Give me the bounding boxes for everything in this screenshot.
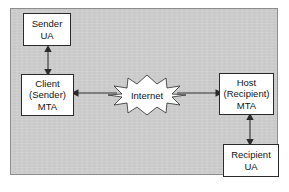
- node-client-mta-line-1: Client: [35, 78, 59, 90]
- arrowhead-up-icon: [44, 45, 51, 52]
- diagram-panel: Sender UA Client (Sender) MTA Host (Reci…: [10, 8, 278, 175]
- connector-host-mta-to-recipient-ua: [241, 113, 259, 146]
- node-client-mta[interactable]: Client (Sender) MTA: [21, 74, 74, 116]
- internet-label: Internet: [107, 73, 187, 117]
- connector-sender-ua-to-client-mta: [39, 45, 57, 76]
- node-sender-ua-line-2: UA: [40, 30, 53, 42]
- node-host-mta[interactable]: Host (Recipient) MTA: [219, 73, 274, 115]
- node-host-mta-line-3: MTA: [237, 100, 256, 112]
- node-sender-ua-line-1: Sender: [32, 18, 63, 30]
- node-recipient-ua-line-1: Recipient: [231, 149, 271, 161]
- node-client-mta-line-3: MTA: [38, 101, 57, 113]
- diagram-canvas: Sender UA Client (Sender) MTA Host (Reci…: [0, 0, 289, 192]
- node-host-mta-line-2: (Recipient): [224, 88, 270, 100]
- node-client-mta-line-2: (Sender): [29, 89, 66, 101]
- node-sender-ua[interactable]: Sender UA: [23, 13, 71, 46]
- node-recipient-ua[interactable]: Recipient UA: [223, 144, 279, 177]
- node-recipient-ua-line-2: UA: [244, 161, 257, 173]
- node-host-mta-line-1: Host: [237, 77, 257, 89]
- internet-cloud[interactable]: Internet: [107, 73, 187, 117]
